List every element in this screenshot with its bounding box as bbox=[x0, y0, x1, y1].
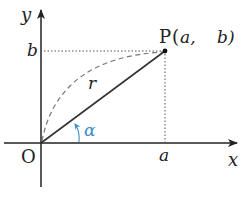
point-p-coord-a: a, bbox=[180, 27, 196, 47]
x-axis-label: x bbox=[228, 149, 238, 170]
point-p-dot bbox=[163, 49, 168, 54]
y-axis-label: y bbox=[20, 4, 32, 25]
x-tick-label-a: a bbox=[159, 145, 169, 165]
point-p-label: P bbox=[159, 26, 171, 47]
angle-arc-icon bbox=[75, 124, 79, 142]
diagram-canvas: y b O a x P ( a, b) r α bbox=[0, 0, 245, 199]
radius-label: r bbox=[88, 73, 97, 93]
point-p-coord-b: b) bbox=[217, 27, 235, 47]
y-tick-label-b: b bbox=[27, 40, 38, 60]
coordinate-diagram: y b O a x P ( a, b) r α bbox=[0, 0, 245, 199]
angle-label: α bbox=[84, 120, 96, 140]
point-p-open-paren: ( bbox=[172, 26, 179, 47]
origin-label: O bbox=[21, 146, 36, 167]
